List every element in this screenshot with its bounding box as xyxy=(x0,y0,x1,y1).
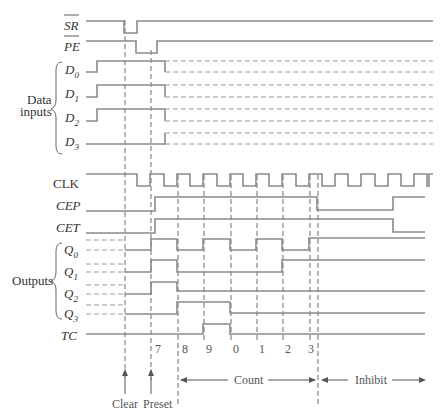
label-sr: SR xyxy=(64,18,79,33)
state-2: 2 xyxy=(285,342,291,356)
arrow-up-icon xyxy=(122,369,128,376)
group-data-inputs: Data inputs xyxy=(20,62,62,154)
arrow-right-icon xyxy=(419,377,426,383)
count-span: Count xyxy=(180,373,316,387)
signal-q3 xyxy=(86,302,425,314)
label-q3: Q3 xyxy=(64,306,78,324)
label-outputs: Outputs xyxy=(12,273,53,288)
label-pe: PE xyxy=(63,39,80,54)
inhibit-span: Inhibit xyxy=(321,373,426,387)
group-outputs: Outputs xyxy=(12,243,62,319)
signal-tc xyxy=(86,324,425,334)
label-q0: Q0 xyxy=(64,242,78,260)
signal-q0 xyxy=(86,238,425,250)
label-inhibit: Inhibit xyxy=(355,373,388,387)
state-9: 9 xyxy=(206,342,212,356)
signal-d0 xyxy=(86,61,433,72)
clear-marker: Clear xyxy=(112,369,138,411)
signal-q2 xyxy=(86,282,425,294)
label-d2: D2 xyxy=(64,110,79,128)
label-inputs: inputs xyxy=(20,104,52,119)
state-8: 8 xyxy=(182,342,188,356)
label-d1: D1 xyxy=(64,86,79,104)
arrow-right-icon xyxy=(309,377,316,383)
label-clear: Clear xyxy=(112,397,138,411)
signal-pe xyxy=(86,41,433,53)
label-preset: Preset xyxy=(143,397,173,411)
state-3: 3 xyxy=(308,342,314,356)
signal-cet xyxy=(86,219,425,233)
label-clk: CLK xyxy=(53,176,80,191)
label-cet: CET xyxy=(56,220,81,235)
signal-sr xyxy=(86,21,433,33)
state-0: 0 xyxy=(233,342,239,356)
label-cep: CEP xyxy=(56,198,81,213)
signal-d2 xyxy=(86,109,433,121)
label-count: Count xyxy=(234,373,264,387)
signal-d3 xyxy=(86,133,433,144)
label-q2: Q2 xyxy=(64,286,78,304)
state-7: 7 xyxy=(155,342,161,356)
signal-q1 xyxy=(86,260,425,272)
signal-clk xyxy=(86,174,433,186)
count-states: 7 8 9 0 1 2 3 xyxy=(155,342,314,356)
arrow-up-icon xyxy=(148,369,154,376)
arrow-left-icon xyxy=(180,377,187,383)
label-tc: TC xyxy=(61,328,77,343)
arrow-left-icon xyxy=(321,377,328,383)
brace-icon xyxy=(51,62,62,154)
signal-d1 xyxy=(86,85,433,97)
state-1: 1 xyxy=(259,342,265,356)
preset-marker: Preset xyxy=(143,369,173,411)
timing-diagram: SR PE D0 D1 D2 D3 CLK CEP CET Q0 Q1 Q2 Q… xyxy=(0,0,440,419)
label-q1: Q1 xyxy=(64,264,78,282)
signal-cep xyxy=(86,197,425,211)
label-d0: D0 xyxy=(64,62,79,80)
label-d3: D3 xyxy=(64,134,79,152)
